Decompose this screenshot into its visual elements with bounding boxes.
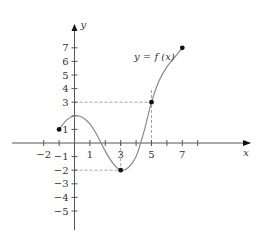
y-tick-label: −4 [54,192,69,203]
y-tick-label: −3 [54,178,69,189]
y-tick-label: 1 [62,124,68,135]
x-tick-label: 1 [87,149,93,160]
y-tick-label: −5 [54,206,69,217]
x-tick-label: 3 [118,149,124,160]
data-point [57,127,62,132]
y-tick-label: 7 [62,42,68,53]
data-point [149,100,154,105]
axes [12,24,251,230]
y-tick-label: 6 [62,56,68,67]
y-axis-arrow-icon [72,24,78,31]
y-tick-label: 3 [62,97,68,108]
x-tick-label: −2 [36,149,51,160]
y-tick-label: 5 [62,70,68,81]
x-tick-label: 7 [179,149,185,160]
x-axis-label: x [243,147,249,158]
axis-labels: −21357765431−1−2−3−4−5xyy = f (x) [36,19,249,217]
function-graph: −21357765431−1−2−3−4−5xyy = f (x) [0,0,256,235]
y-axis-label: y [80,19,87,30]
y-tick-label: −1 [54,151,69,162]
x-tick-label: 5 [148,149,154,160]
y-tick-label: 4 [62,83,68,94]
y-tick-label: −2 [54,165,69,176]
data-point [118,168,123,173]
data-point [180,45,185,50]
curve-label: y = f (x) [133,51,175,62]
x-axis-arrow-icon [243,140,251,146]
